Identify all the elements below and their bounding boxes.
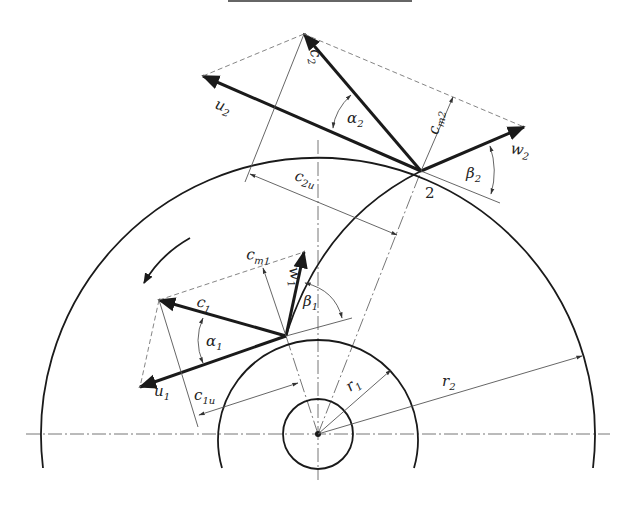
label-point2: 2 xyxy=(425,184,435,202)
u1-c1-dashed-side xyxy=(140,300,159,387)
label-r2: r2 xyxy=(442,372,456,392)
label-cm1: cm1 xyxy=(245,245,271,267)
c2u-dimension xyxy=(250,174,397,235)
cm1-dimension xyxy=(263,268,286,336)
beta2-arc xyxy=(490,146,494,194)
u2-vector xyxy=(203,76,421,171)
tangent-point1 xyxy=(286,318,352,336)
rotation-arrow xyxy=(144,238,190,283)
label-alpha2: α2 xyxy=(347,109,364,129)
label-u2: u2 xyxy=(212,95,234,119)
label-u1: u1 xyxy=(154,382,170,402)
radial-line-point2 xyxy=(318,171,421,434)
label-beta1: β1 xyxy=(302,292,318,312)
impeller-velocity-diagram: c2 u2 α2 cm2 w2 β2 c2u 2 cm1 w1 c1 β1 α1… xyxy=(0,0,629,505)
label-c1u: c1u xyxy=(194,386,215,406)
label-beta2: β2 xyxy=(465,164,481,184)
alpha1-arc xyxy=(198,318,203,363)
u2-w2-dashed-side xyxy=(203,34,304,76)
label-cm2: cm2 xyxy=(424,109,448,136)
label-r1: r1 xyxy=(342,373,365,397)
c1-vector xyxy=(159,300,286,336)
c2u-extension xyxy=(245,34,304,182)
blade-curve xyxy=(286,171,421,336)
label-c2u: c2u xyxy=(292,166,318,191)
label-w2: w2 xyxy=(509,139,531,162)
label-alpha1: α1 xyxy=(206,332,223,352)
label-w1: w1 xyxy=(283,266,306,288)
r1-dimension xyxy=(318,370,391,434)
c1u-extension xyxy=(159,300,198,427)
r2-dimension xyxy=(318,356,582,434)
c1-w1-dashed-side xyxy=(159,252,304,300)
